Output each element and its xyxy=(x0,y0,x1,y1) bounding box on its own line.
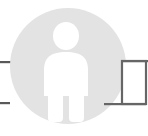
rectangle-node[interactable] xyxy=(122,61,146,104)
diagram-canvas xyxy=(0,0,148,136)
box-top-connector xyxy=(122,60,148,62)
left-lower-connector xyxy=(0,102,10,104)
diagram-svg xyxy=(0,0,148,136)
